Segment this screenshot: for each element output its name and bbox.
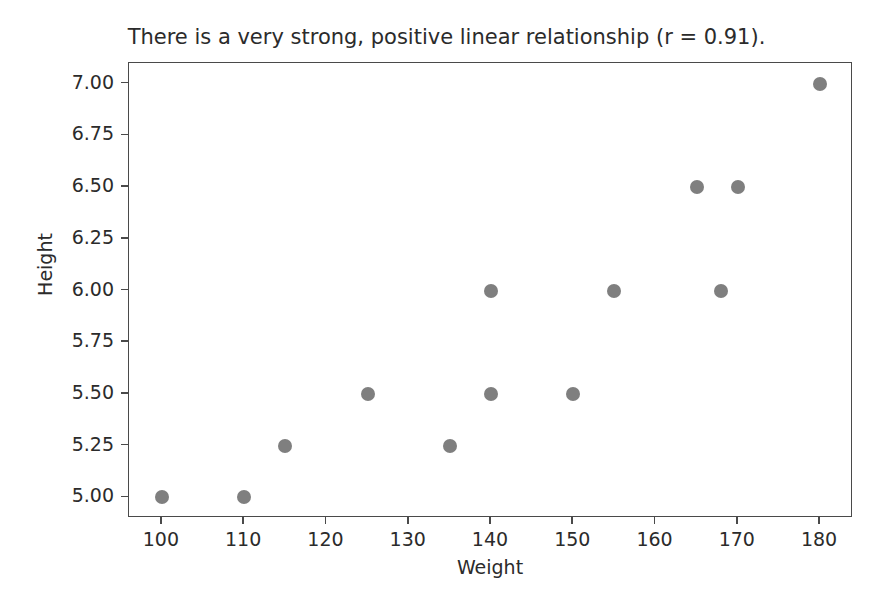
x-axis-tick	[736, 517, 738, 524]
page-title: There is a very strong, positive linear …	[0, 24, 893, 50]
y-axis-tick-label: 5.75	[0, 331, 114, 350]
x-axis-tick-label: 100	[121, 530, 201, 549]
scatter-plot-figure: There is a very strong, positive linear …	[0, 0, 893, 605]
y-axis-tick	[121, 444, 128, 446]
x-axis-tick	[242, 517, 244, 524]
x-axis-tick	[818, 517, 820, 524]
y-axis-tick	[121, 134, 128, 136]
y-axis-tick	[121, 496, 128, 498]
data-point	[566, 387, 580, 401]
y-axis-tick-label: 5.25	[0, 435, 114, 454]
data-point	[278, 439, 292, 453]
y-axis-tick-label: 6.00	[0, 280, 114, 299]
data-point	[813, 77, 827, 91]
x-axis-tick	[489, 517, 491, 524]
y-axis-tick-label: 6.75	[0, 124, 114, 143]
y-axis-label: Height	[36, 205, 55, 325]
x-axis-tick-label: 150	[532, 530, 612, 549]
x-axis-tick-label: 110	[203, 530, 283, 549]
x-axis-tick	[160, 517, 162, 524]
y-axis-tick	[121, 82, 128, 84]
x-axis-tick-label: 160	[615, 530, 695, 549]
data-point	[484, 387, 498, 401]
y-axis-tick	[121, 392, 128, 394]
data-point	[714, 284, 728, 298]
x-axis-tick-label: 140	[450, 530, 530, 549]
data-point	[443, 439, 457, 453]
y-axis-tick-label: 5.50	[0, 383, 114, 402]
y-axis-tick-label: 5.00	[0, 486, 114, 505]
x-axis-tick	[571, 517, 573, 524]
y-axis-tick	[121, 289, 128, 291]
x-axis-tick	[407, 517, 409, 524]
x-axis-tick-label: 130	[368, 530, 448, 549]
data-point	[690, 180, 704, 194]
y-axis-tick-label: 6.50	[0, 176, 114, 195]
data-point	[731, 180, 745, 194]
data-points-layer	[129, 63, 851, 516]
y-axis-tick	[121, 340, 128, 342]
data-point	[484, 284, 498, 298]
data-point	[361, 387, 375, 401]
x-axis-tick	[654, 517, 656, 524]
y-axis-tick	[121, 185, 128, 187]
x-axis-tick-label: 170	[697, 530, 777, 549]
data-point	[155, 490, 169, 504]
y-axis-tick-label: 7.00	[0, 73, 114, 92]
data-point	[237, 490, 251, 504]
x-axis-tick-label: 180	[779, 530, 859, 549]
x-axis-label: Weight	[128, 558, 852, 577]
x-axis-tick	[325, 517, 327, 524]
x-axis-tick-label: 120	[285, 530, 365, 549]
y-axis-tick	[121, 237, 128, 239]
y-axis-tick-label: 6.25	[0, 228, 114, 247]
plot-area	[128, 62, 852, 517]
data-point	[607, 284, 621, 298]
